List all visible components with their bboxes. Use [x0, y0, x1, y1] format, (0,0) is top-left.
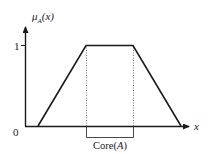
y-tick-label-1: 1	[14, 40, 20, 52]
x-axis-label: x	[193, 120, 199, 132]
core-bracket	[87, 126, 134, 138]
y-axis-label: μA(x)	[31, 10, 54, 25]
core-label: Core(A)	[93, 140, 127, 152]
membership-diagram: μA(x) 1 0 x Core(A)	[0, 0, 210, 154]
origin-label: 0	[13, 126, 19, 138]
membership-curve	[38, 46, 181, 127]
